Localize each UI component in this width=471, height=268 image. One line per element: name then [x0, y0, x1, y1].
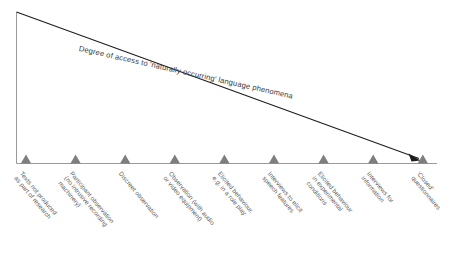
declining-slope-line	[17, 12, 420, 159]
marker-triangle	[170, 155, 180, 164]
marker-triangle	[120, 155, 130, 164]
access-cline-diagram: Degree of access to 'naturally occurring…	[0, 0, 471, 268]
marker-triangle	[418, 155, 428, 164]
marker-triangle	[318, 155, 328, 164]
marker-triangle	[21, 155, 31, 164]
marker-triangle	[219, 155, 229, 164]
marker-triangle	[269, 155, 279, 164]
diagram-canvas	[0, 0, 471, 268]
marker-triangle	[70, 155, 80, 164]
marker-triangle	[368, 155, 378, 164]
slope-arrowhead	[409, 154, 421, 162]
